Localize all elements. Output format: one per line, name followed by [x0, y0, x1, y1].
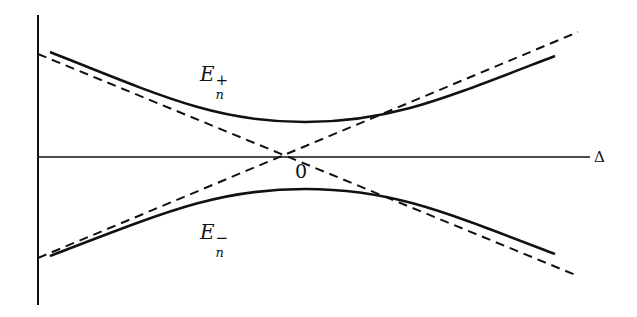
- diagram-canvas: E + n E − n 0 Δ: [0, 0, 637, 317]
- delta-axis-label: Δ: [594, 148, 605, 166]
- dashed-asymptote-ascending: [38, 32, 578, 258]
- lower-energy-curve: [50, 189, 555, 256]
- lower-curve-label: E − n: [200, 220, 227, 244]
- upper-curve-label: E + n: [200, 62, 227, 86]
- upper-energy-curve: [50, 52, 555, 122]
- lower-curve-subscript: n: [216, 245, 224, 260]
- upper-curve-subscript: n: [216, 87, 224, 102]
- diagram-svg: [0, 0, 637, 317]
- upper-curve-symbol: E: [200, 62, 215, 86]
- lower-curve-symbol: E: [200, 220, 215, 244]
- dashed-asymptote-descending: [38, 54, 578, 276]
- origin-label: 0: [295, 160, 307, 182]
